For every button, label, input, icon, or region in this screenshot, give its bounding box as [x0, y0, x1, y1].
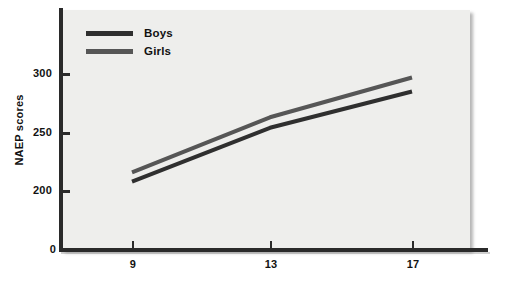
y-axis-tick: [63, 132, 70, 135]
chart-figure: 3002502000 91317 NAEP scores BoysGirls: [0, 0, 510, 290]
legend-item-boys[interactable]: Boys: [86, 24, 206, 42]
x-axis-tick: [412, 241, 414, 249]
legend-item-girls[interactable]: Girls: [86, 42, 206, 60]
y-axis-line: [59, 8, 63, 252]
x-axis-tick-label: 17: [398, 258, 428, 270]
y-axis-tick-label: 200: [26, 184, 52, 196]
x-axis-tick-label: 13: [256, 258, 286, 270]
x-axis-tick: [270, 241, 272, 249]
y-axis-title: NAEP scores: [13, 80, 25, 180]
legend-item-label: Girls: [144, 45, 171, 57]
y-axis-tick-label: 250: [26, 126, 52, 138]
x-axis-shadow: [61, 252, 490, 254]
y-axis-tick: [63, 73, 70, 76]
x-axis-line: [59, 248, 488, 252]
y-axis-tick-label: 300: [26, 67, 52, 79]
legend: BoysGirls: [86, 24, 206, 60]
legend-item-label: Boys: [144, 27, 173, 39]
x-axis-tick: [132, 241, 134, 249]
x-axis-tick-label: 9: [118, 258, 148, 270]
y-axis-tick: [63, 190, 70, 193]
legend-swatch-icon: [86, 31, 133, 36]
y-axis-tick-label: 0: [30, 243, 56, 255]
legend-swatch-icon: [86, 49, 133, 54]
